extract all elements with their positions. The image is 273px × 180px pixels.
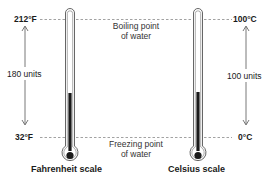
celsius-span-label: 100 units — [227, 72, 262, 81]
celsius-mercury-column — [196, 92, 199, 151]
freezing-point-label: Freezing point of water — [91, 140, 181, 159]
fahrenheit-mercury-column — [68, 93, 71, 151]
boiling-point-label: Boiling point of water — [91, 22, 181, 41]
celsius-scale-label: Celsius scale — [168, 165, 225, 174]
celsius-thermometer-icon — [190, 9, 206, 161]
fahrenheit-bulb — [66, 152, 73, 159]
celsius-bottom-value: 0°C — [238, 133, 252, 142]
celsius-top-value: 100°C — [233, 15, 257, 24]
freezing-point-label-line2: of water — [91, 150, 181, 160]
fahrenheit-span-label: 180 units — [7, 70, 42, 79]
boiling-point-label-line2: of water — [91, 32, 181, 42]
celsius-bulb — [194, 152, 201, 159]
temperature-scales-diagram: 212°F 180 units 32°F Fahrenheit scale 10… — [0, 0, 273, 180]
fahrenheit-bottom-value: 32°F — [15, 133, 33, 142]
fahrenheit-scale-label: Fahrenheit scale — [31, 165, 102, 174]
fahrenheit-top-value: 212°F — [14, 15, 37, 24]
